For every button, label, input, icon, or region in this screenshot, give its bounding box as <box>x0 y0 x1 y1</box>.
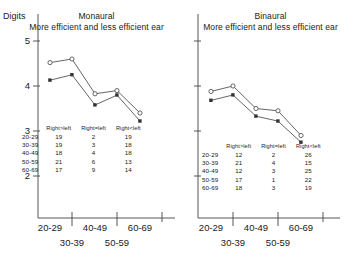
table-row-label: 60-69 <box>22 165 41 173</box>
table-cell: 17 <box>221 175 256 183</box>
point-more-efficient <box>231 84 235 88</box>
table-cell: 21 <box>221 159 256 167</box>
point-more-efficient <box>48 61 52 65</box>
point-less-efficient <box>138 119 141 122</box>
table-cell: 17 <box>41 165 76 173</box>
table-row: 50-59 17 1 22 <box>202 175 326 183</box>
x-tick-label-50-59: 50-59 <box>95 237 139 248</box>
table-row: 20-29 19 2 19 <box>22 133 146 141</box>
table-cell: 3 <box>256 167 291 175</box>
table-cell: 4 <box>76 149 111 157</box>
frequency-table-monaural: Right>left Right=left Right<left 20-29 1… <box>22 125 146 173</box>
table-row-label: 50-59 <box>202 175 221 183</box>
table-row: 20-29 12 2 26 <box>202 151 326 159</box>
x-tick-label-60-69: 60-69 <box>279 222 323 233</box>
series-less-efficient-line <box>50 75 140 121</box>
table-cell: 3 <box>76 141 111 149</box>
point-more-efficient <box>276 109 280 113</box>
frequency-table-binaural: Right>left Right=left Right<left 20-29 1… <box>202 143 326 191</box>
panel-binaural: Binaural More efficient and less efficie… <box>180 0 361 258</box>
table-cell: 19 <box>111 133 146 141</box>
table-header-row: Right>left Right=left Right<left <box>22 125 146 133</box>
table-cell: 19 <box>41 133 76 141</box>
table-cell: 26 <box>291 151 326 159</box>
x-tick-label-20-29: 20-29 <box>28 222 72 233</box>
table-cell: 19 <box>41 141 76 149</box>
y-tick-label-5: 5 <box>14 35 30 46</box>
table-cell: 1 <box>256 175 291 183</box>
table-row-label: 60-69 <box>202 183 221 191</box>
table-cell: 12 <box>221 151 256 159</box>
table-col-right-equal: Right=left <box>256 143 291 151</box>
table-cell: 18 <box>41 149 76 157</box>
series-less-efficient-line <box>211 95 301 142</box>
table-cell: 25 <box>291 167 326 175</box>
x-tick-label-40-49: 40-49 <box>73 222 117 233</box>
table-cell: 15 <box>291 159 326 167</box>
table-row: 40-49 18 4 18 <box>22 149 146 157</box>
x-tick-label-60-69: 60-69 <box>118 222 162 233</box>
point-less-efficient <box>115 93 118 96</box>
table-col-right-less: Right<left <box>291 143 326 151</box>
point-more-efficient <box>209 89 213 93</box>
point-more-efficient <box>70 57 74 61</box>
table-row: 30-39 21 4 15 <box>202 159 326 167</box>
table-cell: 19 <box>291 183 326 191</box>
point-more-efficient <box>93 92 97 96</box>
table-col-right-greater: Right>left <box>221 143 256 151</box>
table-col-right-greater: Right>left <box>41 125 76 133</box>
table-cell: 22 <box>291 175 326 183</box>
table-cell: 14 <box>111 165 146 173</box>
table-cell: 18 <box>111 141 146 149</box>
table-row-label: 20-29 <box>22 133 41 141</box>
table-row: 40-49 12 3 25 <box>202 167 326 175</box>
table-row: 30-39 19 3 18 <box>22 141 146 149</box>
point-more-efficient <box>115 89 119 93</box>
table-corner <box>22 125 41 133</box>
point-less-efficient <box>254 114 257 117</box>
table-cell: 12 <box>221 167 256 175</box>
table-cell: 13 <box>111 157 146 165</box>
point-less-efficient <box>70 73 73 76</box>
table-row: 60-69 18 3 19 <box>202 183 326 191</box>
table-cell: 21 <box>41 157 76 165</box>
table-cell: 2 <box>76 133 111 141</box>
table-cell: 6 <box>76 157 111 165</box>
point-less-efficient <box>276 119 279 122</box>
table-row-label: 20-29 <box>202 151 221 159</box>
x-tick-label-50-59: 50-59 <box>256 237 300 248</box>
point-more-efficient <box>254 106 258 110</box>
table-col-right-less: Right<left <box>111 125 146 133</box>
point-more-efficient <box>138 111 142 115</box>
table-row: 50-59 21 6 13 <box>22 157 146 165</box>
table-cell: 2 <box>256 151 291 159</box>
x-tick-label-20-29: 20-29 <box>189 222 233 233</box>
table-cell: 18 <box>111 149 146 157</box>
x-tick-label-30-39: 30-39 <box>211 237 255 248</box>
x-tick-label-30-39: 30-39 <box>50 237 94 248</box>
y-tick-label-4: 4 <box>14 80 30 91</box>
point-less-efficient <box>93 103 96 106</box>
point-more-efficient <box>299 133 303 137</box>
table-row-label: 30-39 <box>22 141 41 149</box>
table-row-label: 40-49 <box>22 149 41 157</box>
table-row: 60-69 17 9 14 <box>22 165 146 173</box>
table-corner <box>202 143 221 151</box>
x-tick-label-40-49: 40-49 <box>234 222 278 233</box>
table-cell: 18 <box>221 183 256 191</box>
plot-area-binaural <box>180 0 361 258</box>
panel-monaural: Digits Monaural More efficient and less … <box>0 0 181 258</box>
table-cell: 9 <box>76 165 111 173</box>
table-col-right-equal: Right=left <box>76 125 111 133</box>
table-cell: 4 <box>256 159 291 167</box>
table-row-label: 50-59 <box>22 157 41 165</box>
point-less-efficient <box>48 78 51 81</box>
table-row-label: 40-49 <box>202 167 221 175</box>
point-less-efficient <box>231 93 234 96</box>
table-header-row: Right>left Right=left Right<left <box>202 143 326 151</box>
figure-root: Digits Monaural More efficient and less … <box>0 0 361 258</box>
point-less-efficient <box>209 99 212 102</box>
table-row-label: 30-39 <box>202 159 221 167</box>
table-cell: 3 <box>256 183 291 191</box>
